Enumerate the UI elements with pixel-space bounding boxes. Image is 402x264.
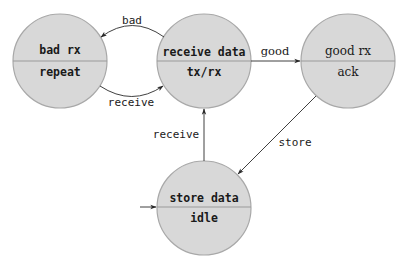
state-bad-rx[interactable]: bad rx repeat — [13, 14, 107, 108]
state-receive-data-action: tx/rx — [187, 65, 222, 79]
state-store-data[interactable]: store data idle — [157, 161, 251, 255]
transition-bad-label: bad — [122, 14, 142, 27]
state-good-rx-action: ack — [337, 65, 359, 79]
transition-store-label: store — [278, 136, 311, 149]
state-good-rx[interactable]: good rx ack — [301, 14, 395, 108]
state-receive-data[interactable]: receive data tx/rx — [157, 14, 251, 108]
state-store-data-name: store data — [169, 191, 238, 205]
state-diagram: bad rx repeat receive data tx/rx good rx… — [0, 0, 402, 264]
arrow-store — [238, 96, 316, 174]
transition-good[interactable]: good — [251, 44, 300, 61]
state-bad-rx-name: bad rx — [39, 43, 81, 57]
transition-store[interactable]: store — [238, 96, 316, 174]
state-good-rx-name: good rx — [325, 44, 371, 58]
state-receive-data-name: receive data — [162, 45, 245, 59]
transition-receive-bottom-label: receive — [153, 128, 199, 141]
arrow-receive-top — [100, 86, 163, 97]
transition-receive-bottom[interactable]: receive — [153, 109, 204, 161]
transition-receive-top-label: receive — [108, 96, 154, 109]
state-bad-rx-action: repeat — [39, 65, 81, 79]
transition-bad[interactable]: bad — [101, 14, 164, 37]
arrow-bad — [101, 26, 164, 38]
transition-good-label: good — [261, 44, 290, 58]
state-store-data-action: idle — [190, 211, 218, 225]
transition-receive-top[interactable]: receive — [100, 86, 163, 109]
